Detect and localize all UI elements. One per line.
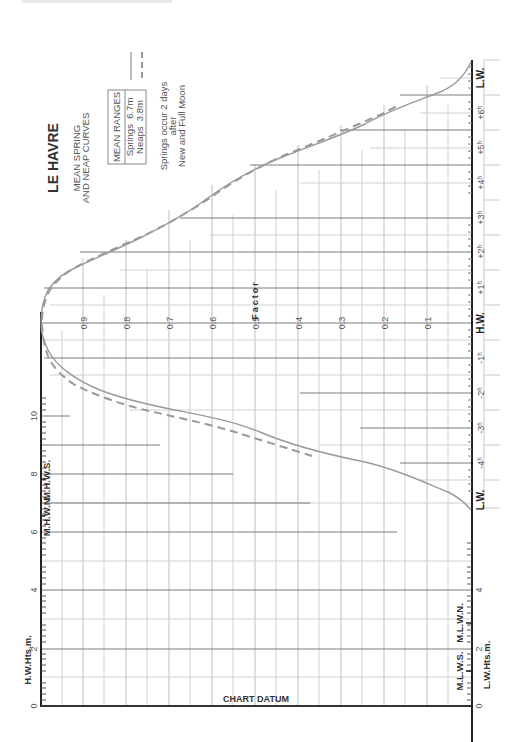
mlwn-label: M.L.W.N. xyxy=(454,603,465,643)
time-tick-plus2: +2ʰ xyxy=(476,245,486,259)
legend-neaps: Neaps 3.8m xyxy=(134,100,145,154)
factor-tick-0.3: 0.3 xyxy=(337,317,347,330)
mhws-label: M.H.W.S. xyxy=(41,460,52,500)
right-frame xyxy=(484,60,500,508)
lw-tick-0: 0 xyxy=(474,703,484,708)
neaps-curve xyxy=(42,105,398,456)
time-tick-plus1: +1ʰ xyxy=(476,281,486,295)
hw-tick-6: 6 xyxy=(29,529,39,534)
time-tick-plus3: +3ʰ xyxy=(476,211,486,225)
lw-tick-4: 4 xyxy=(474,587,484,592)
factor-tick-0.1: 0.1 xyxy=(423,317,433,330)
lw-axis-label: L.W.Hts.m. xyxy=(481,641,492,690)
factor-tick-0.2: 0.2 xyxy=(380,317,390,330)
hw-tick-0: 0 xyxy=(29,703,39,708)
time-tick-plus5: +5ʰ xyxy=(476,141,486,155)
hw-tick-8: 8 xyxy=(29,471,39,476)
time-tick-minus1: -1ʰ xyxy=(476,352,486,364)
chart-title: LE HAVRE xyxy=(45,123,61,193)
time-tick-lw-end: L.W. xyxy=(475,68,486,89)
chart-datum-label-upright: CHART DATUM xyxy=(223,694,289,704)
factor-label: Factor xyxy=(250,280,260,320)
time-tick-plus6: +6ʰ xyxy=(476,106,486,120)
factor-tick-0.9: 0.9 xyxy=(79,317,89,330)
subtitle-line2: AND NEAP CURVES xyxy=(80,113,91,203)
hw-tick-4: 4 xyxy=(29,587,39,592)
hw-tick-10: 10 xyxy=(29,411,39,421)
note-line3: New and Full Moon xyxy=(176,85,187,167)
mlws-label: M.L.W.S. xyxy=(454,651,465,690)
tidal-curve-chart: LE HAVRE MEAN SPRING AND NEAP CURVES MEA… xyxy=(0,0,523,742)
factor-tick-0.4: 0.4 xyxy=(294,317,304,330)
grid-major-vertical xyxy=(83,85,427,706)
grid-major-horizontal xyxy=(41,95,472,649)
time-tick-minus3: -3ʰ xyxy=(476,422,486,434)
time-tick-hw: H.W. xyxy=(475,312,486,334)
time-tick-minus2: -2ʰ xyxy=(476,387,486,399)
time-tick-minus4: -4ʰ xyxy=(476,457,486,469)
time-tick-plus4: +4ʰ xyxy=(476,176,486,190)
factor-tick-0.8: 0.8 xyxy=(122,317,132,330)
hw-axis-label: H.W.Hts.m. xyxy=(22,635,33,685)
factor-tick-0.7: 0.7 xyxy=(165,317,175,330)
legend-header: MEAN RANGES xyxy=(111,92,122,162)
time-tick-lw-start: L.W. xyxy=(475,490,486,511)
factor-tick-0.6: 0.6 xyxy=(208,317,218,330)
